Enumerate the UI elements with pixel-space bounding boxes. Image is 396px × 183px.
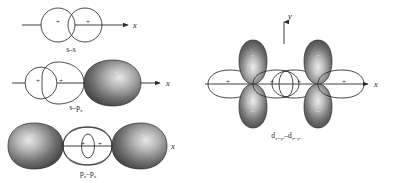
sign-minus-right-d-down: − (316, 108, 320, 116)
sign-plus-left-d-outer-left: + (226, 78, 230, 86)
sign-plus-p-panel-2: + (59, 77, 63, 85)
sign-plus-right-panel-1: + (86, 18, 90, 26)
right-p-negative-lobe-panel-3 (112, 123, 167, 169)
sign-minus-left-d-down: − (251, 108, 255, 116)
sign-minus-left-panel-3: − (30, 132, 34, 140)
x-axis-label-panel-2: x (165, 78, 170, 88)
caption-panel-3: px–px (80, 169, 97, 179)
sign-plus-s-panel-2: + (36, 77, 40, 85)
left-p-negative-lobe-panel-3 (8, 123, 63, 169)
y-axis-label-panel-4: y (287, 11, 292, 21)
sign-minus-right-d-up: − (316, 52, 320, 60)
panel-s-px: x + + − s–px (12, 60, 170, 113)
caption-panel-3-sub-b: x (94, 174, 97, 179)
caption-panel-2: s–px (70, 103, 83, 113)
right-d-lobe-down-negative (304, 84, 332, 128)
left-d-lobe-up-negative (239, 40, 267, 84)
x-axis-label-panel-4: x (373, 79, 378, 89)
caption-panel-4-sub-b: x²−y² (292, 136, 302, 141)
sign-plus-right-inner-panel-3: + (98, 140, 102, 148)
orbital-overlap-figure: x + + s–s x + + − s–px x (0, 0, 396, 183)
left-d-lobe-down-negative (239, 84, 267, 128)
s-orbital-panel-2 (25, 67, 57, 99)
sign-plus-left-panel-1: + (56, 18, 60, 26)
sign-minus-right-panel-3: − (141, 132, 145, 140)
sign-plus-right-d-inner-left: + (297, 78, 301, 86)
x-axis-label-panel-1: x (132, 20, 137, 30)
caption-panel-3-main-b: –p (85, 169, 94, 178)
caption-panel-4-main-b: –d (283, 131, 292, 140)
panel-px-px: x − + + − px–px (8, 123, 175, 179)
sign-plus-right-d-outer-right: + (342, 78, 346, 86)
figure-canvas: x + + s–s x + + − s–px x (0, 0, 396, 183)
p-orbital-negative-lobe-panel-2 (84, 60, 141, 106)
sign-minus-left-d-up: − (251, 52, 255, 60)
panel-dx2y2-dx2y2: y x + − − + + − (205, 11, 378, 141)
caption-panel-4: dx²−y²–dx²−y² (271, 131, 301, 141)
right-d-lobe-up-negative (304, 40, 332, 84)
panel-s-s: x + + s–s (22, 8, 137, 54)
caption-panel-1: s–s (66, 45, 76, 54)
caption-panel-2-sub: x (80, 108, 83, 113)
caption-panel-2-main: s–p (70, 103, 81, 112)
x-axis-label-panel-3: x (170, 141, 175, 151)
sign-minus-p-panel-2: − (114, 69, 118, 77)
